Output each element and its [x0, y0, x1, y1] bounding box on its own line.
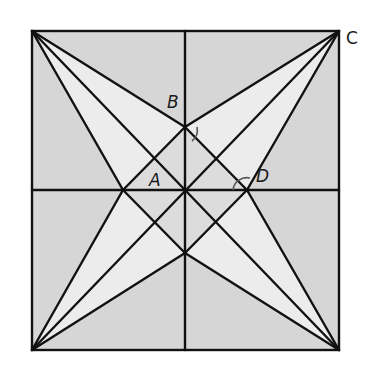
diagram-lines [32, 31, 339, 350]
geometry-diagram: B A D C [0, 0, 376, 373]
label-B: B [167, 92, 179, 112]
label-D: D [256, 166, 269, 186]
label-A: A [148, 170, 161, 190]
label-C: C [346, 28, 358, 48]
